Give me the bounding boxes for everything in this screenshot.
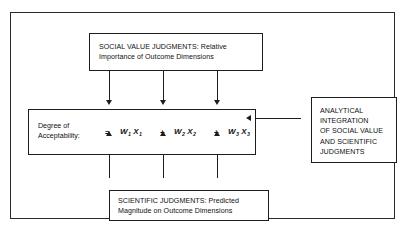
equation-term-1-weight-subscript: 1 (128, 131, 131, 137)
equation-term-3: W3 X3 (228, 127, 250, 136)
box-scientific-judgments: SCIENTIFIC JUDGMENTS: Predicted Magnitud… (109, 190, 269, 221)
equation-term-2: W2 X2 (174, 127, 196, 136)
arrow-social-to-term-2 (160, 100, 166, 105)
equation-term-2-variable-subscript: 2 (193, 131, 196, 137)
equation-term-1-variable-subscript: 1 (139, 131, 142, 137)
equation-term-3-weight-subscript: 3 (236, 131, 239, 137)
arrow-social-to-term-1 (106, 100, 112, 105)
equation-term-2-weight: W (174, 127, 182, 136)
box-analytical-integration: ANALYTICAL INTEGRATION OF SOCIAL VALUE A… (311, 97, 397, 163)
arrow-scientific-to-term-3 (214, 131, 220, 136)
equation-term-3-weight: W (228, 127, 236, 136)
diagram-outer-frame: SOCIAL VALUE JUDGMENTS: Relative Importa… (10, 12, 395, 219)
equation-term-1-weight: W (120, 127, 128, 136)
equation-row-label: Degree of Acceptability: (38, 122, 80, 142)
connector-analytical-to-equation (251, 118, 301, 119)
box-degree-of-acceptability: Degree of Acceptability: = W1 X1 + W2 X2… (28, 109, 256, 155)
arrow-scientific-to-term-2 (160, 131, 166, 136)
equation-term-2-weight-subscript: 2 (182, 131, 185, 137)
arrow-social-to-term-3 (214, 100, 220, 105)
arrow-scientific-to-term-1 (106, 131, 112, 136)
box-scientific-judgments-label: SCIENTIFIC JUDGMENTS: Predicted Magnitud… (118, 197, 239, 216)
equation-expression: = W1 X1 + W2 X2 + W3 X3 (105, 127, 255, 143)
box-social-value-judgments: SOCIAL VALUE JUDGMENTS: Relative Importa… (89, 33, 263, 71)
equation-term-1: W1 X1 (120, 127, 142, 136)
diagram-canvas: SOCIAL VALUE JUDGMENTS: Relative Importa… (0, 0, 406, 234)
box-social-value-judgments-label: SOCIAL VALUE JUDGMENTS: Relative Importa… (99, 43, 227, 62)
equation-term-3-variable-subscript: 3 (247, 131, 250, 137)
arrow-analytical-to-equation (246, 115, 251, 121)
box-analytical-integration-label: ANALYTICAL INTEGRATION OF SOCIAL VALUE A… (320, 106, 383, 157)
